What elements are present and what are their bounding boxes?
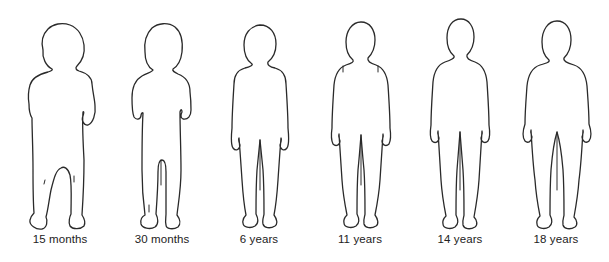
label-18-years: 18 years <box>534 233 579 245</box>
label-14-years: 14 years <box>438 233 483 245</box>
figure-30-months <box>132 24 191 229</box>
figure-15-months <box>28 24 95 230</box>
growth-figures <box>0 0 609 262</box>
figure-6-years <box>231 25 288 228</box>
figure-11-years <box>331 22 390 228</box>
label-15-months: 15 months <box>33 233 88 245</box>
figure-18-years <box>523 21 591 229</box>
label-11-years: 11 years <box>338 233 382 245</box>
label-6-years: 6 years <box>240 233 278 245</box>
label-30-months: 30 months <box>135 233 190 245</box>
figure-14-years <box>430 19 489 229</box>
